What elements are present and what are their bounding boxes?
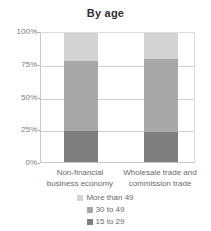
legend-swatch-icon [77,195,83,201]
chart-legend: More than 4930 to 4915 to 29 [0,192,211,228]
y-tick-mark [37,163,40,164]
plot-area [40,32,195,163]
y-tick-label: 100% [5,28,37,36]
bar-segment[interactable] [144,132,178,162]
y-tick-label: 75% [5,61,37,69]
bar-stack [64,33,98,162]
legend-label: More than 49 [86,193,133,202]
bar-segment[interactable] [144,59,178,133]
bar-group[interactable] [144,33,178,162]
x-axis-label-line: commission trade [111,179,209,190]
legend-swatch-icon [87,207,93,213]
legend-item[interactable]: 30 to 49 [87,204,125,215]
y-tick-label: 50% [5,94,37,102]
legend-label: 15 to 29 [96,217,125,226]
bar-group[interactable] [64,33,98,162]
x-axis-label: Wholesale trade andcommission trade [111,168,209,189]
y-tick-label: 25% [5,126,37,134]
x-axis-label-line: Wholesale trade and [111,168,209,179]
legend-label: 30 to 49 [96,205,125,214]
bar-segment[interactable] [64,61,98,131]
chart-container: By age 0%25%50%75%100% Non-financialbusi… [0,0,211,231]
y-tick-label: 0% [5,159,37,167]
bar-segment[interactable] [144,33,178,59]
bar-segment[interactable] [64,33,98,61]
bar-segment[interactable] [64,131,98,162]
legend-item[interactable]: More than 49 [77,192,133,203]
legend-swatch-icon [87,219,93,225]
bar-stack [144,33,178,162]
chart-title: By age [0,7,211,19]
bars-layer [41,33,194,162]
legend-item[interactable]: 15 to 29 [87,216,125,227]
